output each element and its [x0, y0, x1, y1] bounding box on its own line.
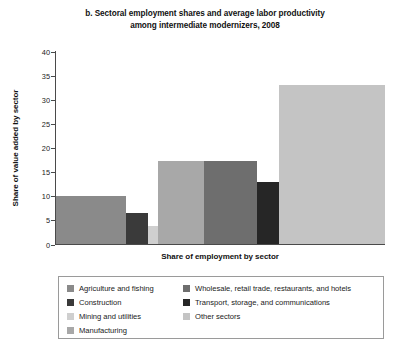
bar-fill	[204, 161, 257, 244]
legend-item: Wholesale, retail trade, restaurants, an…	[183, 281, 351, 295]
plot-area: 0510152025303540	[55, 51, 385, 245]
legend-item: Agriculture and fishing	[67, 281, 154, 295]
y-tick-mark	[51, 76, 55, 77]
legend-column-1: Agriculture and fishingConstructionMinin…	[67, 281, 154, 337]
bar	[279, 51, 385, 244]
y-tick-label: 20	[42, 144, 50, 153]
bar	[56, 51, 126, 244]
y-axis-title: Share of value added by sector	[9, 51, 22, 245]
legend-item-label: Other sectors	[195, 312, 240, 321]
y-tick-mark	[51, 196, 55, 197]
legend-item-label: Mining and utilities	[79, 312, 141, 321]
bar-fill	[126, 213, 148, 244]
bar	[257, 51, 279, 244]
y-tick-label: 0	[46, 240, 50, 249]
legend-swatch	[67, 327, 74, 334]
bar	[148, 51, 158, 244]
legend-item-label: Manufacturing	[79, 326, 127, 335]
y-tick-mark	[51, 100, 55, 101]
y-tick-label: 40	[42, 47, 50, 56]
bar-fill	[279, 85, 385, 244]
chart-title-line-2: among intermediate modernizers, 2008	[40, 20, 370, 32]
legend-column-2: Wholesale, retail trade, restaurants, an…	[183, 281, 351, 323]
y-tick-mark	[51, 124, 55, 125]
legend-item-label: Transport, storage, and communications	[195, 298, 330, 307]
bar-fill	[148, 226, 158, 244]
legend-swatch	[183, 285, 190, 292]
bar	[204, 51, 257, 244]
legend-item-label: Wholesale, retail trade, restaurants, an…	[195, 284, 351, 293]
y-tick-mark	[51, 52, 55, 53]
legend-swatch	[67, 285, 74, 292]
bar-series	[56, 51, 385, 244]
legend-swatch	[67, 313, 74, 320]
chart-page: b. Sectoral employment shares and averag…	[0, 0, 403, 347]
bar-fill	[56, 196, 126, 244]
chart-title: b. Sectoral employment shares and averag…	[40, 8, 370, 31]
y-tick-label: 15	[42, 168, 50, 177]
legend-swatch	[67, 299, 74, 306]
legend-item: Construction	[67, 295, 154, 309]
y-tick-label: 25	[42, 119, 50, 128]
y-tick-mark	[51, 172, 55, 173]
y-tick-label: 35	[42, 71, 50, 80]
chart-title-line-1: b. Sectoral employment shares and averag…	[40, 8, 370, 20]
legend-swatch	[183, 299, 190, 306]
legend-swatch	[183, 313, 190, 320]
legend-item: Other sectors	[183, 309, 351, 323]
bar	[126, 51, 148, 244]
legend-item-label: Construction	[79, 298, 121, 307]
y-tick-label: 5	[46, 216, 50, 225]
y-tick: 0	[55, 245, 59, 246]
chart-legend: Agriculture and fishingConstructionMinin…	[58, 276, 384, 339]
y-tick-mark	[51, 220, 55, 221]
legend-item: Mining and utilities	[67, 309, 154, 323]
bar	[158, 51, 205, 244]
legend-item-label: Agriculture and fishing	[79, 284, 154, 293]
y-tick-label: 30	[42, 95, 50, 104]
x-axis-line	[55, 244, 385, 245]
y-tick-mark	[51, 245, 55, 246]
x-axis-title: Share of employment by sector	[55, 252, 385, 261]
legend-item: Transport, storage, and communications	[183, 295, 351, 309]
bar-fill	[257, 182, 279, 244]
y-tick-mark	[51, 148, 55, 149]
bar-fill	[158, 161, 205, 244]
y-tick-label: 10	[42, 192, 50, 201]
legend-item: Manufacturing	[67, 323, 154, 337]
